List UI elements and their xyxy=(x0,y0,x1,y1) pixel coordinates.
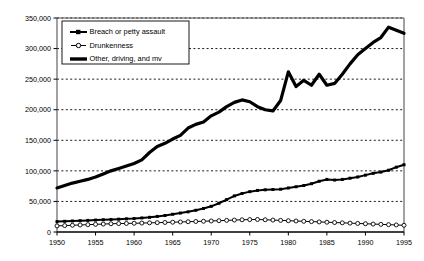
data-point-marker xyxy=(202,219,206,223)
x-tick-label: 1975 xyxy=(242,238,258,247)
y-tick-label: 0 xyxy=(47,228,51,237)
data-point-marker xyxy=(240,218,244,222)
data-point-marker xyxy=(94,222,98,226)
data-point-marker xyxy=(379,171,382,174)
data-point-marker xyxy=(217,219,221,223)
data-point-marker xyxy=(317,220,321,224)
data-point-marker xyxy=(225,198,228,201)
data-point-marker xyxy=(263,218,267,222)
y-tick-label: 100,000 xyxy=(25,167,51,176)
legend-item-label: Other, driving, and mv xyxy=(90,54,163,63)
y-tick-label: 300,000 xyxy=(25,44,51,53)
data-point-marker xyxy=(402,223,406,227)
data-point-marker xyxy=(178,220,182,224)
data-point-marker xyxy=(394,223,398,227)
data-point-marker xyxy=(70,223,74,227)
data-point-marker xyxy=(102,218,105,221)
data-point-marker xyxy=(279,218,283,222)
data-point-marker xyxy=(163,214,166,217)
data-point-marker xyxy=(295,185,298,188)
data-point-marker xyxy=(133,217,136,220)
data-point-marker xyxy=(63,220,66,223)
data-point-marker xyxy=(256,189,259,192)
data-point-marker xyxy=(63,224,67,228)
chart-legend: Breach or petty assaultDrunkennessOther,… xyxy=(62,21,189,64)
chart-container: 050,000100,000150,000200,000250,000300,0… xyxy=(0,0,424,261)
y-tick-label: 200,000 xyxy=(25,105,51,114)
data-point-marker xyxy=(171,220,175,224)
data-point-marker xyxy=(101,222,105,226)
data-point-marker xyxy=(232,218,236,222)
data-point-marker xyxy=(78,223,82,227)
data-point-marker xyxy=(294,219,298,223)
data-point-marker xyxy=(356,221,360,225)
data-point-marker xyxy=(233,194,236,197)
data-point-marker xyxy=(79,219,82,222)
data-point-marker xyxy=(155,221,159,225)
data-point-marker xyxy=(55,224,59,228)
data-point-marker xyxy=(302,184,305,187)
x-tick-label: 1995 xyxy=(396,238,412,247)
legend-square-marker-icon xyxy=(76,30,80,34)
y-tick-label: 150,000 xyxy=(25,136,51,145)
data-point-marker xyxy=(132,221,136,225)
data-point-marker xyxy=(202,207,205,210)
data-point-marker xyxy=(187,210,190,213)
data-point-marker xyxy=(156,215,159,218)
x-tick-label: 1950 xyxy=(49,238,65,247)
data-point-marker xyxy=(148,216,151,219)
data-point-marker xyxy=(379,222,383,226)
data-point-marker xyxy=(387,169,390,172)
data-point-marker xyxy=(371,222,375,226)
data-point-marker xyxy=(333,179,336,182)
data-point-marker xyxy=(255,217,259,221)
legend-item-label: Drunkenness xyxy=(90,41,134,50)
x-tick-label: 1985 xyxy=(319,238,335,247)
x-tick-label: 1960 xyxy=(126,238,142,247)
x-tick-label: 1990 xyxy=(357,238,373,247)
data-point-marker xyxy=(94,219,97,222)
data-point-marker xyxy=(163,220,167,224)
data-point-marker xyxy=(194,209,197,212)
data-point-marker xyxy=(364,174,367,177)
data-point-marker xyxy=(279,188,282,191)
x-tick-label: 1965 xyxy=(165,238,181,247)
data-point-marker xyxy=(286,219,290,223)
data-point-marker xyxy=(349,177,352,180)
data-point-marker xyxy=(310,182,313,185)
legend-item-label: Breach or petty assault xyxy=(90,27,166,36)
line-chart: 050,000100,000150,000200,000250,000300,0… xyxy=(0,0,424,261)
data-point-marker xyxy=(86,223,90,227)
data-point-marker xyxy=(325,178,328,181)
data-point-marker xyxy=(171,213,174,216)
data-point-marker xyxy=(186,220,190,224)
data-point-marker xyxy=(71,219,74,222)
data-point-marker xyxy=(264,188,267,191)
data-point-marker xyxy=(209,219,213,223)
data-point-marker xyxy=(341,178,344,181)
data-point-marker xyxy=(333,221,337,225)
y-tick-label: 250,000 xyxy=(25,75,51,84)
data-point-marker xyxy=(124,221,128,225)
data-point-marker xyxy=(140,221,144,225)
data-point-marker xyxy=(86,219,89,222)
data-point-marker xyxy=(287,186,290,189)
data-point-marker xyxy=(387,223,391,227)
data-point-marker xyxy=(395,166,398,169)
data-point-marker xyxy=(210,205,213,208)
data-point-marker xyxy=(117,218,120,221)
data-point-marker xyxy=(117,222,121,226)
x-tick-label: 1980 xyxy=(280,238,296,247)
data-point-marker xyxy=(225,218,229,222)
data-point-marker xyxy=(140,216,143,219)
data-point-marker xyxy=(248,190,251,193)
data-point-marker xyxy=(325,220,329,224)
data-point-marker xyxy=(241,192,244,195)
data-point-marker xyxy=(109,222,113,226)
data-point-marker xyxy=(248,218,252,222)
data-point-marker xyxy=(109,218,112,221)
data-point-marker xyxy=(125,217,128,220)
data-point-marker xyxy=(271,218,275,222)
data-point-marker xyxy=(179,212,182,215)
data-point-marker xyxy=(56,220,59,223)
